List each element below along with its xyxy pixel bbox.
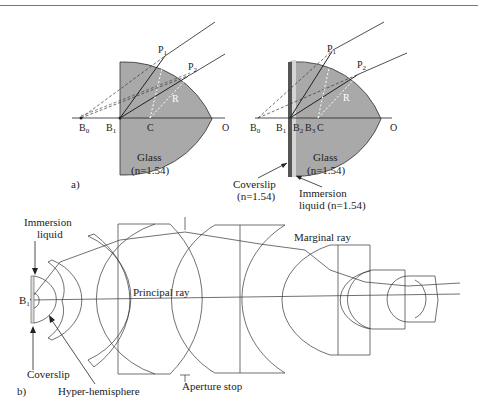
panel-b-label: b) [17,385,27,398]
immersion-liquid-label-line1: Immersion [24,216,72,228]
marginal-ray-label: Marginal ray [294,231,351,243]
glass-index: (n=1.54) [307,164,346,177]
label-b0: B0 [79,122,90,135]
label-c: C [317,122,324,133]
label-o: O [222,122,229,133]
immersion-label: Immersion [299,187,347,199]
aperture-stop-label: Aperture stop [182,380,243,392]
hyper-hemisphere-label: Hyper-hemisphere [58,385,140,397]
panel-b-labels: Immersion liquid B1 Coverslip Hyper-hemi… [17,216,351,398]
label-c: C [147,122,154,133]
coverslip-plate [31,276,34,323]
coverslip-index: (n=1.54) [237,190,276,203]
immersion-layer [292,60,296,177]
label-b0: B0 [250,122,261,135]
panel-a-right: P1 P2 R B0 B1 B2 B3 C O Glass (n=1.54) C… [233,22,407,212]
glass-index: (n=1.54) [131,164,170,177]
panel-a-label: a) [71,178,80,191]
immersion-liquid-label-line2: liquid [37,228,63,240]
principal-ray [30,294,460,300]
coverslip-label: Coverslip [27,368,70,380]
marginal-ray [30,232,460,300]
coverslip-label: Coverslip [233,178,276,190]
label-b1: B1 [106,122,117,135]
label-p2: P2 [357,59,367,72]
label-b1: B1 [19,294,30,308]
principal-ray-label: Principal ray [133,286,190,298]
glass-label: Glass [313,151,337,163]
label-p2: P2 [188,61,198,74]
label-r: R [343,92,350,103]
label-r: R [172,93,179,104]
optics-figure: P1 P2 R B0 B1 C O Glass (n=1.54) a) P1 P… [0,0,478,417]
label-o: O [390,122,397,133]
immersion-arrow [298,177,322,187]
coverslip-layer [288,62,292,177]
glass-label: Glass [137,151,161,163]
panel-a-left: P1 P2 R B0 B1 C O Glass (n=1.54) a) [71,22,229,191]
immersion-index: liquid (n=1.54) [299,199,366,212]
panel-b-objective [30,217,460,382]
label-b1: B1 [276,122,287,135]
label-p1: P1 [158,44,168,57]
